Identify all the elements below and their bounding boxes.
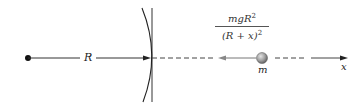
- radius-label: R: [83, 52, 93, 63]
- force-denominator-text: (R + x): [222, 30, 258, 41]
- x-axis-arrow: [311, 56, 348, 61]
- earth-surface: [142, 8, 152, 102]
- mass-label-text: m: [258, 64, 267, 75]
- force-numerator-exponent: 2: [251, 12, 255, 20]
- mass-ball: [257, 53, 268, 64]
- force-denominator-exponent: 2: [258, 29, 262, 37]
- force-numerator: mgR2: [215, 12, 269, 25]
- mass-label: m: [258, 65, 267, 75]
- force-label: mgR2 (R + x)2: [215, 12, 269, 41]
- fraction-bar: [215, 26, 269, 27]
- force-arrow: [218, 56, 256, 61]
- radius-label-text: R: [84, 51, 92, 64]
- axis-label: x: [341, 62, 347, 72]
- diagram-canvas: [0, 0, 363, 106]
- force-denominator: (R + x)2: [215, 29, 269, 41]
- axis-label-text: x: [341, 61, 347, 72]
- force-numerator-text: mgR: [228, 13, 251, 24]
